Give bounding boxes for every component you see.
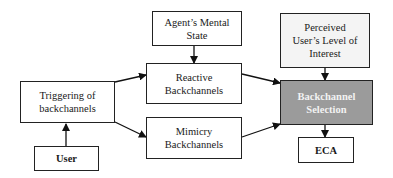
arrow-mimicry-to-selection (242, 124, 280, 137)
node-backchannel-selection: Backchannel Selection (280, 80, 373, 125)
arrow-reactive-to-selection (242, 74, 280, 83)
node-eca: ECA (298, 137, 354, 163)
node-agent-mental-state-line2: State (164, 29, 229, 42)
node-user-label: User (56, 152, 77, 165)
node-perceived-interest-line2: User’s Level of (292, 34, 357, 47)
node-triggering-backchannels: Triggering of backchannels (20, 81, 115, 123)
node-mimicry-line1: Mimicry (165, 125, 223, 138)
node-user: User (34, 146, 99, 171)
node-reactive-backchannels: Reactive Backchannels (146, 63, 242, 104)
node-perceived-interest: Perceived User’s Level of Interest (280, 13, 370, 68)
node-agent-mental-state: Agent’s Mental State (152, 11, 242, 46)
node-perceived-interest-line1: Perceived (292, 21, 357, 34)
node-selection-line1: Backchannel (298, 90, 356, 103)
node-reactive-line2: Backchannels (165, 84, 223, 97)
node-reactive-line1: Reactive (165, 71, 223, 84)
node-perceived-interest-line3: Interest (292, 47, 357, 60)
node-selection-line2: Selection (298, 103, 356, 116)
arrow-triggering-to-reactive (115, 75, 146, 82)
arrow-triggering-to-mimicry (115, 122, 146, 137)
node-mimicry-line2: Backchannels (165, 138, 223, 151)
node-mimicry-backchannels: Mimicry Backchannels (146, 117, 242, 159)
node-eca-label: ECA (315, 144, 337, 157)
node-agent-mental-state-line1: Agent’s Mental (164, 16, 229, 29)
node-triggering-line1: Triggering of (39, 89, 96, 102)
node-triggering-line2: backchannels (39, 102, 96, 115)
